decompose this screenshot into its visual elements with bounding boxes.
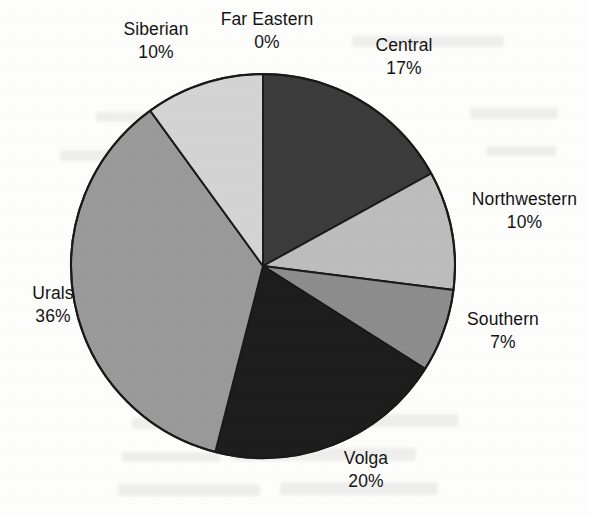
slice-label-siberian: Siberian 10% bbox=[104, 18, 208, 64]
slice-label-central: Central 17% bbox=[352, 34, 456, 80]
slice-label-far-eastern-name: Far Eastern bbox=[208, 8, 326, 31]
slice-label-far-eastern: Far Eastern 0% bbox=[208, 8, 326, 54]
slice-label-siberian-value: 10% bbox=[104, 41, 208, 64]
slice-label-northwestern: Northwestern 10% bbox=[462, 188, 587, 234]
slice-label-volga-name: Volga bbox=[318, 447, 414, 470]
slice-label-urals-value: 36% bbox=[8, 305, 98, 328]
pie-slice-group bbox=[71, 74, 455, 458]
slice-label-far-eastern-value: 0% bbox=[208, 31, 326, 54]
slice-label-southern: Southern 7% bbox=[450, 308, 556, 354]
slice-label-volga-value: 20% bbox=[318, 470, 414, 493]
pie-chart-svg bbox=[0, 0, 589, 516]
slice-label-urals: Urals 36% bbox=[8, 282, 98, 328]
pie-chart-figure bbox=[0, 0, 589, 516]
slice-label-southern-name: Southern bbox=[450, 308, 556, 331]
slice-label-siberian-name: Siberian bbox=[104, 18, 208, 41]
slice-label-southern-value: 7% bbox=[450, 331, 556, 354]
slice-label-northwestern-value: 10% bbox=[462, 211, 587, 234]
slice-label-central-value: 17% bbox=[352, 57, 456, 80]
slice-label-central-name: Central bbox=[352, 34, 456, 57]
slice-label-northwestern-name: Northwestern bbox=[462, 188, 587, 211]
slice-label-volga: Volga 20% bbox=[318, 447, 414, 493]
slice-label-urals-name: Urals bbox=[8, 282, 98, 305]
